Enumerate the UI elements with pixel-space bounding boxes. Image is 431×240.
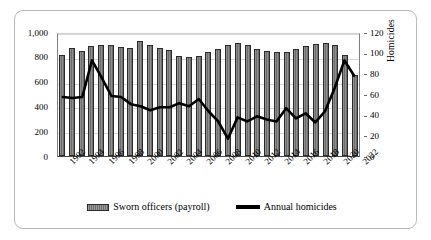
x-tick-label: 2000 xyxy=(146,160,152,166)
y-tick-mark-right xyxy=(364,33,367,34)
y-axis-left: 02004006008001,000 xyxy=(6,33,52,157)
x-tick-label: 2018 xyxy=(322,160,328,166)
x-tick-label: 1996 xyxy=(107,160,113,166)
y-tick-label-right: 60 xyxy=(370,91,379,100)
chart-figure: 02004006008001,000 020406080100120 Homic… xyxy=(0,0,431,240)
y-tick-mark-right xyxy=(364,74,367,75)
y-axis-right-title: Homicides xyxy=(386,19,396,62)
y-tick-mark-right xyxy=(364,116,367,117)
x-tick-label: 2012 xyxy=(263,160,269,166)
x-axis-labels: 1992199419961998200020022004200620082010… xyxy=(57,158,360,196)
x-tick-label: 2002 xyxy=(166,160,172,166)
x-tick-label: 1998 xyxy=(127,160,133,166)
y-tick-label-left: 200 xyxy=(35,128,49,137)
line-swatch-icon xyxy=(236,205,260,209)
x-tick-label: 1994 xyxy=(87,160,93,166)
plot-area xyxy=(57,33,360,157)
x-tick-label: 1992 xyxy=(68,160,74,166)
x-tick-label: 2006 xyxy=(205,160,211,166)
legend-label-annual-homicides: Annual homicides xyxy=(264,202,337,212)
y-tick-label-right: 40 xyxy=(370,111,379,120)
y-tick-label-left: 600 xyxy=(35,78,49,87)
y-tick-mark-right xyxy=(364,95,367,96)
x-tick-label: 2010 xyxy=(244,160,250,166)
y-tick-mark-right xyxy=(364,54,367,55)
y-tick-label-left: 0 xyxy=(44,153,49,162)
y-tick-label-right: 20 xyxy=(370,132,379,141)
line-series-annual-homicides xyxy=(58,34,359,156)
x-tick-label: 2020 xyxy=(342,160,348,166)
chart-legend: Sworn officers (payroll) Annual homicide… xyxy=(57,199,367,215)
y-tick-mark-right xyxy=(364,136,367,137)
y-tick-label-left: 1,000 xyxy=(28,29,48,38)
x-tick-label: 2014 xyxy=(283,160,289,166)
legend-label-sworn-officers: Sworn officers (payroll) xyxy=(113,202,209,212)
y-tick-label-left: 800 xyxy=(35,53,49,62)
x-tick-label: 2016 xyxy=(302,160,308,166)
y-tick-label-right: 80 xyxy=(370,70,379,79)
legend-item-sworn-officers: Sworn officers (payroll) xyxy=(87,202,209,212)
x-tick-label: 2008 xyxy=(224,160,230,166)
y-tick-label-right: 120 xyxy=(370,29,384,38)
x-tick-label: 2004 xyxy=(185,160,191,166)
y-tick-label-right: 100 xyxy=(370,49,384,58)
legend-item-annual-homicides: Annual homicides xyxy=(236,202,337,212)
y-tick-label-left: 400 xyxy=(35,103,49,112)
bar-swatch-icon xyxy=(87,204,109,211)
